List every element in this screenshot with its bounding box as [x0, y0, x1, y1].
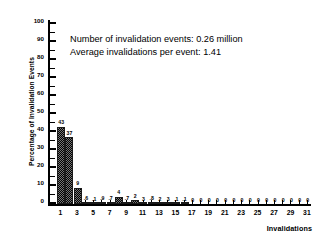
- bar: [57, 127, 65, 204]
- x-tick-label: 11: [139, 210, 146, 217]
- bar-value-label: 9: [76, 181, 79, 186]
- y-tick-label: 100: [34, 18, 44, 24]
- bar: [115, 197, 123, 204]
- y-tick-minor: [50, 86, 55, 87]
- bar-value-label: 0: [306, 198, 309, 203]
- y-tick: [50, 58, 56, 60]
- y-tick-label: 70: [37, 72, 44, 78]
- x-tick-label: 29: [287, 210, 295, 217]
- bar: [74, 188, 82, 204]
- y-tick: [50, 130, 56, 132]
- y-tick: [50, 94, 56, 96]
- y-tick-label: 20: [37, 162, 44, 168]
- y-tick-label: 60: [37, 90, 44, 96]
- chart-figure: Percentage of Invalidation Events Number…: [0, 0, 322, 248]
- x-tick-label: 19: [204, 210, 212, 217]
- y-tick-minor: [50, 68, 55, 69]
- bar-value-label: 0: [290, 198, 293, 203]
- bar-value-label: 0: [265, 198, 268, 203]
- y-tick-minor: [50, 140, 55, 141]
- y-tick-minor: [50, 122, 55, 123]
- bar-value-label: 0: [191, 198, 194, 203]
- y-tick: [50, 202, 56, 204]
- y-tick-minor: [50, 104, 55, 105]
- bar-value-label: 37: [67, 131, 73, 136]
- x-axis-line: [48, 204, 311, 206]
- bar-value-label: 0: [208, 198, 211, 203]
- bar-value-label: .6: [84, 196, 88, 201]
- bar-value-label: 0: [224, 198, 227, 203]
- y-tick: [50, 22, 56, 24]
- y-tick: [50, 112, 56, 114]
- bar-value-label: 2: [134, 194, 137, 199]
- x-tick-label: 27: [270, 210, 278, 217]
- bar-value-label: .1: [174, 197, 178, 202]
- bar-value-label: 43: [58, 120, 64, 125]
- bar-value-label: .1: [92, 197, 96, 202]
- bar: [123, 202, 131, 204]
- bar: [139, 202, 147, 204]
- bar-value-label: 0: [200, 198, 203, 203]
- bar: [98, 202, 106, 204]
- y-tick-label: 90: [37, 36, 44, 42]
- y-tick: [50, 166, 56, 168]
- y-tick-label: 0: [41, 198, 44, 204]
- bar: [65, 137, 73, 204]
- bar-value-label: 3: [142, 197, 145, 202]
- x-tick-label: 13: [155, 210, 163, 217]
- bar-value-label: .7: [125, 196, 129, 201]
- x-tick-label: 5: [91, 210, 95, 217]
- bar-value-label: 4: [117, 190, 120, 195]
- y-tick: [50, 40, 56, 42]
- y-tick-minor: [50, 50, 55, 51]
- y-tick-minor: [50, 194, 55, 195]
- bar: [148, 202, 156, 204]
- bar-value-label: .7: [108, 196, 112, 201]
- x-tick-label: 1: [58, 210, 62, 217]
- bar-value-label: 0: [232, 198, 235, 203]
- x-tick-label: 21: [221, 210, 229, 217]
- y-tick-minor: [50, 176, 55, 177]
- y-tick-minor: [50, 158, 55, 159]
- bar: [164, 202, 172, 204]
- x-tick-label: 15: [172, 210, 180, 217]
- bar-value-label: 0: [298, 198, 301, 203]
- bar-value-label: 0: [282, 198, 285, 203]
- bar-value-label: .1: [182, 197, 186, 202]
- y-tick-label: 80: [37, 54, 44, 60]
- x-tick-label: 9: [124, 210, 128, 217]
- bar: [131, 200, 139, 204]
- bar-value-label: 0: [216, 198, 219, 203]
- bar-value-label: 0: [257, 198, 260, 203]
- y-tick-label: 50: [37, 108, 44, 114]
- y-tick-label: 30: [37, 144, 44, 150]
- y-tick: [50, 184, 56, 186]
- bar: [82, 202, 90, 204]
- bar-value-label: .9: [100, 196, 104, 201]
- x-tick-label: 17: [188, 210, 196, 217]
- y-tick-label: 40: [37, 126, 44, 132]
- bar-value-label: 2: [158, 197, 161, 202]
- bar-value-label: 0: [241, 198, 244, 203]
- y-tick: [50, 148, 56, 150]
- x-tick-label: 25: [254, 210, 262, 217]
- bar-value-label: .8: [149, 196, 153, 201]
- bar-value-label: 0: [249, 198, 252, 203]
- y-tick: [50, 76, 56, 78]
- x-tick-label: 3: [75, 210, 79, 217]
- bar: [107, 202, 115, 204]
- x-tick-label: 23: [237, 210, 245, 217]
- bar-value-label: 0: [273, 198, 276, 203]
- y-tick-label: 10: [37, 180, 44, 186]
- y-axis-title: Percentage of Invalidation Events: [28, 19, 35, 205]
- x-tick-label: 31: [303, 210, 311, 217]
- bar-value-label: 3: [167, 197, 170, 202]
- x-tick-label: 7: [108, 210, 112, 217]
- x-axis-title: Invalidations: [267, 224, 312, 233]
- plot-area: 0102030405060708090100 13579111315171921…: [48, 20, 311, 206]
- y-tick-minor: [50, 32, 55, 33]
